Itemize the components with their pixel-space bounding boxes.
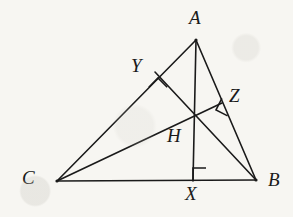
point-label-x: X bbox=[185, 184, 197, 203]
side-ca bbox=[57, 40, 196, 181]
point-label-y: Y bbox=[131, 56, 142, 75]
segments-group bbox=[57, 40, 256, 181]
vertex-dots-group bbox=[55, 38, 257, 182]
geometry-figure: ACBYZXH bbox=[0, 0, 293, 217]
right-angle-markers-group bbox=[149, 78, 234, 181]
point-label-z: Z bbox=[229, 86, 240, 105]
altitude-ax bbox=[193, 40, 196, 181]
point-label-c: C bbox=[22, 168, 35, 187]
point-label-h: H bbox=[167, 126, 181, 145]
point-label-a: A bbox=[189, 8, 201, 27]
angle-at-X bbox=[193, 168, 206, 181]
geometry-canvas bbox=[0, 0, 293, 217]
vertex-dot-c bbox=[55, 179, 58, 182]
altitude-cz bbox=[57, 103, 222, 181]
vertex-dot-b bbox=[254, 178, 257, 181]
side-cb bbox=[57, 180, 256, 181]
point-label-b: B bbox=[268, 170, 280, 189]
side-ab bbox=[196, 40, 256, 180]
vertex-dot-a bbox=[194, 38, 197, 41]
angle-at-Y bbox=[149, 78, 167, 96]
